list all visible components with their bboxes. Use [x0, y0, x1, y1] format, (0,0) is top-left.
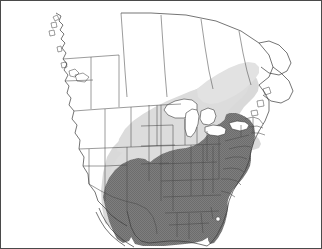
map-canvas: [1, 1, 321, 248]
lake-okeechobee: [216, 217, 220, 221]
range-map-figure: [0, 0, 322, 249]
